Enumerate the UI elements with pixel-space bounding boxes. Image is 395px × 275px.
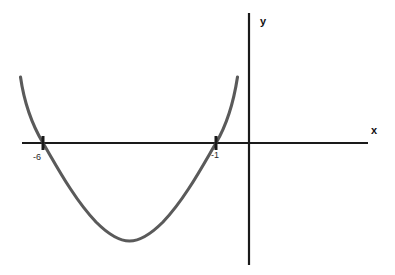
y-axis-label: y	[260, 16, 266, 27]
x-axis-label: x	[371, 125, 377, 136]
root-label-left: -6	[33, 153, 41, 162]
plot-canvas	[0, 0, 395, 275]
root-label-right: -1	[211, 151, 219, 160]
parabola-figure: y x -6 -1	[0, 0, 395, 275]
parabola-curve	[21, 77, 238, 241]
